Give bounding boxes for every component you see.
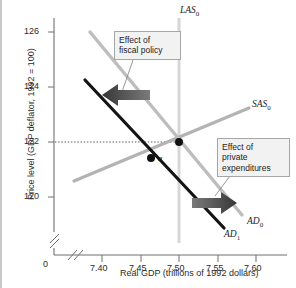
sas-subscript: 0: [267, 104, 271, 112]
ad1-subscript: 1: [237, 234, 241, 242]
x-axis-title: Real GDP (trillions of 1992 dollars): [120, 268, 258, 278]
callout-private-line-2: private: [222, 152, 285, 162]
curve-label-las0: LAS0: [180, 5, 199, 18]
y-axis-title: Price level (GDP deflator, 1992 = 100): [26, 50, 36, 200]
leader-line-fiscal: [122, 60, 133, 92]
origin-label: 0: [43, 259, 48, 269]
curve-label-ad0: AD0: [247, 216, 263, 229]
curve-label-sas0: SAS0: [252, 99, 271, 112]
las-text: LAS: [180, 5, 196, 15]
x-tick-label-740: 7.40: [90, 263, 108, 273]
chart-figure: 126 124 122 120 0 7.40 7.45 7.50 7.55 7.…: [0, 0, 296, 288]
callout-fiscal-line-1: Effect of: [119, 35, 176, 45]
callout-effect-of-fiscal-policy: Effect of fiscal policy: [114, 31, 181, 60]
point-a-dot: [147, 154, 155, 162]
ad1-text: AD: [224, 229, 237, 239]
ad0-text: AD: [247, 216, 260, 226]
point-equilibrium: [175, 138, 183, 146]
callout-private-line-1: Effect of: [222, 142, 285, 152]
y-axis-break-mark-1: [50, 234, 59, 243]
y-axis-break-mark-2: [50, 239, 59, 248]
callout-private-line-3: expenditures: [222, 163, 285, 173]
las-subscript: 0: [196, 10, 200, 18]
y-tick-label-126: 126: [24, 26, 39, 36]
callout-effect-of-private-expenditures: Effect of private expenditures: [217, 138, 290, 177]
callout-fiscal-line-2: fiscal policy: [119, 45, 176, 55]
curve-label-ad1: AD1: [224, 229, 240, 242]
arrow-fiscal-policy-left: [102, 84, 150, 106]
ad0-subscript: 0: [260, 221, 264, 229]
arrow-private-expenditures-right: [192, 192, 237, 214]
sas-text: SAS: [252, 99, 267, 109]
point-a-label: a: [158, 153, 163, 163]
